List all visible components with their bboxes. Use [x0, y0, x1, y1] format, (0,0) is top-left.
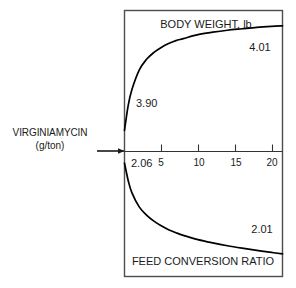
- x-tick-label-10: 10: [193, 157, 205, 168]
- feed-conversion-curve: [125, 163, 283, 254]
- x-axis-ticks: [162, 145, 273, 152]
- x-tick-label-20: 20: [266, 157, 278, 168]
- x-tick-label-5: 5: [158, 157, 164, 168]
- upper-panel-title: BODY WEIGHT, lb: [160, 18, 251, 30]
- feed-conversion-end-value: 2.01: [251, 223, 272, 235]
- x-axis-tick-labels: 5 10 15 20: [158, 157, 278, 168]
- x-tick-label-15: 15: [230, 157, 242, 168]
- feed-conversion-start-value: 2.06: [131, 157, 152, 169]
- body-weight-end-value: 4.01: [249, 41, 270, 53]
- lower-panel-title: FEED CONVERSION RATIO: [132, 255, 275, 267]
- chart-canvas: 5 10 15 20 BODY WEIGHT, lb 3.90 4.01 2.0…: [0, 0, 296, 288]
- chart-figure: VIRGINIAMYCIN (g/ton) 5 10 15 20: [0, 0, 296, 288]
- body-weight-start-value: 3.90: [136, 97, 157, 109]
